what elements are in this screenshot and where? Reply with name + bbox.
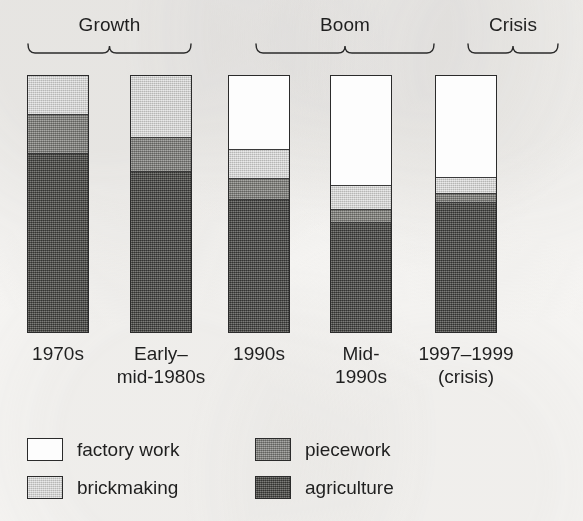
segment-factory bbox=[331, 76, 391, 185]
segment-brick bbox=[331, 185, 391, 209]
x-tick-label: 1997–1999(crisis) bbox=[411, 342, 521, 388]
segment-piece bbox=[229, 178, 289, 199]
legend-item-agri[interactable]: agriculture bbox=[255, 476, 394, 499]
x-tick-label-line2: (crisis) bbox=[411, 365, 521, 388]
x-tick-label-line1: Early– bbox=[134, 343, 188, 364]
bar-mid-1990s bbox=[330, 75, 392, 333]
figure-canvas: GrowthBoomCrisis 1970sEarly–mid-1980s199… bbox=[0, 0, 583, 521]
legend-label: piecework bbox=[305, 438, 391, 461]
plot-area: 1970sEarly–mid-1980s1990sMid-1990s1997–1… bbox=[0, 0, 583, 360]
legend-item-brick[interactable]: brickmaking bbox=[27, 476, 178, 499]
x-tick-label-line1: 1970s bbox=[32, 343, 84, 364]
x-tick-label: 1970s bbox=[3, 342, 113, 365]
legend-label: factory work bbox=[77, 438, 179, 461]
legend-swatch-piece bbox=[255, 438, 291, 461]
segment-piece bbox=[131, 137, 191, 171]
segment-factory bbox=[229, 76, 289, 149]
segment-agri bbox=[28, 153, 88, 332]
segment-agri bbox=[436, 202, 496, 332]
segment-factory bbox=[436, 76, 496, 177]
chart-legend: factory workbrickmakingpieceworkagricult… bbox=[0, 424, 583, 521]
bar-early-mid-1980s bbox=[130, 75, 192, 333]
segment-brick bbox=[131, 76, 191, 137]
x-tick-label-line2: mid-1980s bbox=[106, 365, 216, 388]
x-tick-label-line2: 1990s bbox=[306, 365, 416, 388]
segment-agri bbox=[131, 171, 191, 332]
x-tick-label-line1: 1997–1999 bbox=[418, 343, 513, 364]
segment-agri bbox=[229, 199, 289, 332]
x-tick-label: Mid-1990s bbox=[306, 342, 416, 388]
segment-piece bbox=[436, 193, 496, 202]
legend-label: agriculture bbox=[305, 476, 394, 499]
x-tick-label: 1990s bbox=[204, 342, 314, 365]
legend-swatch-factory bbox=[27, 438, 63, 461]
segment-piece bbox=[28, 114, 88, 153]
legend-swatch-agri bbox=[255, 476, 291, 499]
segment-brick bbox=[28, 76, 88, 114]
bar-1997-1999 bbox=[435, 75, 497, 333]
x-tick-label: Early–mid-1980s bbox=[106, 342, 216, 388]
segment-piece bbox=[331, 209, 391, 223]
legend-label: brickmaking bbox=[77, 476, 178, 499]
legend-swatch-brick bbox=[27, 476, 63, 499]
x-tick-label-line1: 1990s bbox=[233, 343, 285, 364]
legend-item-factory[interactable]: factory work bbox=[27, 438, 179, 461]
legend-item-piece[interactable]: piecework bbox=[255, 438, 391, 461]
segment-brick bbox=[229, 149, 289, 178]
bar-1990s bbox=[228, 75, 290, 333]
segment-brick bbox=[436, 177, 496, 193]
bar-1970s bbox=[27, 75, 89, 333]
segment-agri bbox=[331, 222, 391, 332]
x-tick-label-line1: Mid- bbox=[343, 343, 380, 364]
